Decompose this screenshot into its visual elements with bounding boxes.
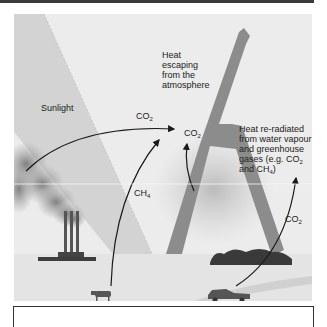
greenhouse-illustration: Sunlight CO2 CO2 CH4 CO2 Heat escaping f… xyxy=(14,14,312,301)
caption-box xyxy=(13,306,314,327)
sunlight-label: Sunlight xyxy=(41,103,74,113)
heat-escaping-label: Heat escaping from the atmosphere xyxy=(162,50,210,90)
co2-center-label: CO2 xyxy=(184,128,201,138)
top-rule xyxy=(0,0,314,3)
ch4-label: CH4 xyxy=(134,188,150,198)
co2-car-label: CO2 xyxy=(285,214,302,224)
heat-reradiated-label: Heat re-radiated from water vapour and g… xyxy=(239,124,312,174)
co2-factory-label: CO2 xyxy=(136,111,153,121)
